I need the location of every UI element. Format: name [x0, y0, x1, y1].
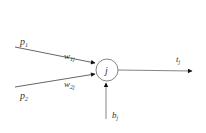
output-label: tj: [176, 54, 181, 65]
input-label-p1: p1: [19, 36, 28, 48]
input-edge-p1: [15, 47, 95, 63]
weight-label-w2j: w2j: [64, 79, 75, 90]
neuron-diagram: p1 w1j p2 w2j j tj bj: [0, 0, 206, 133]
weight-label-w1j: w1j: [64, 51, 75, 62]
input-label-p2: p2: [19, 90, 28, 102]
output-edge: [118, 70, 192, 71]
input-edge-p2: [15, 74, 95, 87]
bias-label: bj: [112, 110, 119, 121]
